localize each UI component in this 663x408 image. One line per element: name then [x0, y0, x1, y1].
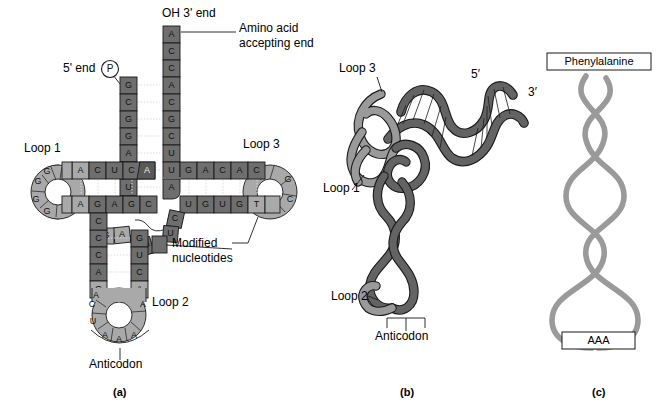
svg-text:A: A: [144, 165, 150, 175]
oh-3prime-end-label: OH 3' end: [162, 7, 216, 21]
loop1-label-b: Loop 1: [323, 182, 360, 196]
svg-text:G: G: [43, 166, 50, 176]
panel-c-schematic: Phenylalanine AAA: [547, 53, 651, 349]
anticodon-label-b: Anticodon: [375, 330, 428, 344]
svg-text:C: C: [94, 165, 101, 175]
svg-text:C: C: [168, 46, 175, 56]
svg-text:T: T: [254, 199, 260, 209]
svg-text:C: C: [95, 250, 102, 260]
loop3-label-a: Loop 3: [243, 138, 280, 152]
svg-text:A: A: [111, 199, 117, 209]
svg-text:U: U: [136, 250, 143, 260]
svg-text:G: G: [43, 206, 50, 216]
svg-text:G: G: [34, 176, 41, 186]
amino-acid-box-label: Phenylalanine: [564, 55, 633, 67]
five-prime-end-label: 5' end: [63, 62, 95, 76]
svg-text:C: C: [95, 216, 102, 226]
svg-text:A: A: [95, 267, 101, 277]
svg-text:C: C: [168, 63, 175, 73]
loop2-label-b: Loop 2: [331, 290, 368, 304]
modified-nucleotides-line1: Modified: [172, 237, 217, 251]
svg-text:C: C: [219, 165, 226, 175]
figure-canvas: A C C A C G C U U A G C G G A U U: [0, 0, 663, 408]
ribbon-strand-2: [585, 78, 638, 348]
svg-text:U: U: [185, 199, 192, 209]
svg-text:G: G: [236, 199, 243, 209]
svg-text:C: C: [253, 165, 260, 175]
svg-text:A: A: [202, 165, 208, 175]
svg-text:C: C: [95, 233, 102, 243]
svg-text:C: C: [287, 194, 294, 204]
phosphate-label: P: [107, 63, 114, 74]
three-prime-label-b: 3′: [528, 86, 537, 100]
acceptor-stem-3prime-strand: A C C A C G C U U A: [163, 26, 180, 199]
codon-box-label: AAA: [587, 334, 610, 346]
svg-text:U: U: [168, 165, 175, 175]
svg-text:A: A: [77, 165, 83, 175]
loop2-label-a: Loop 2: [152, 296, 189, 310]
svg-text:A: A: [77, 199, 83, 209]
svg-text:G: G: [32, 194, 39, 204]
panel-b-id: (b): [400, 386, 414, 398]
svg-text:U: U: [168, 148, 175, 158]
svg-text:C: C: [172, 213, 179, 223]
amino-acid-accepting-end-line1: Amino acid: [239, 22, 298, 36]
modified-nucleotide-cell-t-loop: [265, 196, 280, 213]
loop1-arm: G A G G G A C U C: [31, 162, 157, 219]
svg-text:U: U: [90, 316, 97, 326]
svg-text:C: C: [145, 199, 152, 209]
svg-text:U: U: [111, 165, 118, 175]
amino-acid-accepting-end-line2: accepting end: [239, 37, 314, 51]
svg-text:C: C: [89, 299, 96, 309]
svg-text:G: G: [125, 131, 132, 141]
trna-figure: A C C A C G C U U A G C G G A U U: [0, 0, 663, 408]
svg-text:G: G: [168, 114, 175, 124]
panel-c-id: (c): [592, 386, 605, 398]
svg-text:A: A: [168, 29, 174, 39]
svg-text:U: U: [219, 199, 226, 209]
modified-nucleotide-cell-variable: [152, 236, 167, 253]
panel-a-id: (a): [113, 386, 126, 398]
svg-text:G: G: [185, 165, 192, 175]
svg-text:A: A: [140, 299, 146, 309]
modified-nucleotides-line2: nucleotides: [172, 252, 233, 266]
svg-text:C: C: [168, 131, 175, 141]
svg-text:G: G: [128, 199, 135, 209]
loop3-arm: U G C G A C A C U G: [163, 162, 297, 219]
svg-text:G: G: [202, 199, 209, 209]
svg-text:A: A: [236, 165, 242, 175]
svg-text:A: A: [125, 148, 131, 158]
loop1-label-a: Loop 1: [24, 142, 61, 156]
panel-a-cloverleaf: A C C A C G C U U A G C G G A U U: [31, 26, 297, 360]
loop3-label-b: Loop 3: [339, 62, 376, 76]
ribbon-strand-1: [552, 76, 605, 348]
svg-text:C: C: [128, 165, 135, 175]
svg-text:G: G: [136, 233, 143, 243]
panel-b-folded-structure: [351, 77, 524, 331]
five-prime-label-b: 5′: [471, 68, 480, 82]
svg-text:G: G: [125, 80, 132, 90]
svg-text:C: C: [168, 97, 175, 107]
svg-text:G: G: [94, 199, 101, 209]
svg-text:G: G: [125, 114, 132, 124]
anticodon-label-a: Anticodon: [89, 358, 142, 372]
svg-text:C: C: [125, 97, 132, 107]
svg-text:A: A: [168, 80, 174, 90]
svg-text:C: C: [136, 267, 143, 277]
svg-text:A: A: [168, 182, 174, 192]
